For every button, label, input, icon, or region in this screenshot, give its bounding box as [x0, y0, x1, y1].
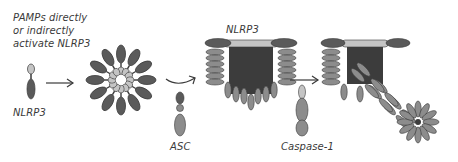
arrow-icon: [46, 79, 73, 87]
nlrp3-monomer: [27, 64, 35, 99]
pamps-note-line2: or indirectly: [13, 25, 74, 37]
asc-label: ASC: [170, 141, 190, 153]
nlrp3-monomer-label: NLRP3: [13, 107, 46, 119]
asc-protein: [175, 92, 186, 136]
inflammasome-filament: [321, 39, 439, 144]
nlrp3-complex-label: NLRP3: [226, 24, 259, 36]
nlrp3-oligomer-ring: [86, 45, 156, 115]
caspase-1-protein: [296, 85, 308, 136]
pamps-note-line3: activate NLRP3: [13, 38, 90, 50]
nlrp3-asc-complex: [205, 39, 297, 111]
curved-arrow-icon: [166, 76, 195, 84]
pamps-note-line1: PAMPs directly: [13, 12, 87, 24]
caspase-1-label: Caspase-1: [281, 141, 334, 153]
